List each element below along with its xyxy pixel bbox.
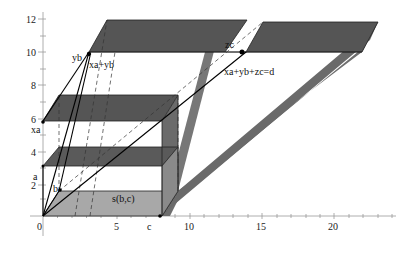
y-tick-10: 10 [26, 47, 36, 58]
y-tick-12: 12 [26, 14, 36, 25]
line-b-to-xayb [59, 56, 90, 191]
x-tick-5: 5 [114, 221, 119, 232]
label-a: a [33, 171, 38, 182]
label-equation: xa+yb+zc=d [224, 66, 274, 77]
label-c: c [147, 221, 152, 232]
point-xa [41, 120, 45, 124]
label-xa-plus-yb: xa+yb [89, 59, 114, 70]
lattice-plane-diagram: 0 5 10 15 20 2 4 6 8 10 12 [0, 0, 417, 254]
x-tick-10: 10 [184, 221, 194, 232]
point-zc [240, 50, 245, 55]
top-right-slab [246, 22, 378, 52]
label-zc: zc [225, 39, 234, 50]
x-tick-15: 15 [256, 221, 266, 232]
bottom-slab [43, 191, 178, 216]
point-c [158, 214, 162, 218]
upper-slab [43, 95, 178, 121]
x-tick-0: 0 [37, 221, 42, 232]
point-yb [87, 52, 91, 56]
label-xa: xa [31, 124, 41, 135]
label-yb: yb [72, 52, 82, 63]
label-b: b [53, 183, 58, 194]
x-tick-20: 20 [328, 221, 338, 232]
y-tick-4: 4 [31, 147, 36, 158]
label-s-bc: s(b,c) [112, 193, 135, 205]
point-a [42, 165, 45, 168]
middle-slab [43, 147, 178, 166]
top-left-slab [89, 20, 247, 52]
point-b [58, 188, 62, 192]
y-tick-8: 8 [31, 80, 36, 91]
